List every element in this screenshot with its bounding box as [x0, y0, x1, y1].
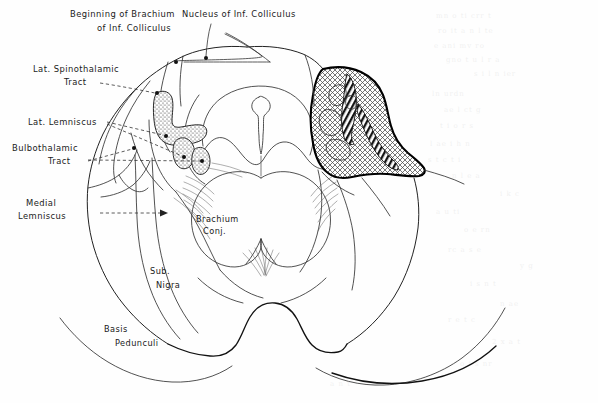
label-medial-lemniscus-line2: Lemniscus	[18, 211, 66, 221]
svg-text:i k c: i k c	[500, 190, 520, 198]
label-brachium-conj-line1: Brachium	[196, 214, 239, 224]
svg-text:o e rn: o e rn	[464, 226, 491, 234]
label-lat-spinothalamic-line1: Lat. Spinothalamic	[33, 64, 119, 74]
svg-text:y g: y g	[519, 262, 534, 270]
label-sub-nigra-line2: Nigra	[156, 280, 180, 290]
svg-text:ln urdn: ln urdn	[432, 90, 465, 98]
label-brachium-conj-line2: Conj.	[203, 226, 226, 236]
svg-text:s t c t i: s t c t i	[428, 156, 461, 164]
leader-endpoint-dot	[204, 56, 208, 60]
svg-text:n ae: n ae	[500, 300, 519, 308]
svg-text:mn o ti crr t: mn o ti crr t	[436, 12, 492, 20]
label-basis-pedunculi-line2: Pedunculi	[115, 338, 159, 348]
svg-text:s i l n ier: s i l n ier	[474, 70, 516, 78]
label-beginning-brachium-line2: of Inf. Colliculus	[97, 23, 171, 33]
label-sub-nigra-line1: Sub.	[150, 266, 170, 276]
svg-text:ro it a n l te: ro it a n l te	[438, 27, 494, 35]
label-lat-spinothalamic-line2: Tract	[63, 77, 87, 87]
svg-text:l ae i h n: l ae i h n	[430, 140, 471, 148]
label-medial-lemniscus-line1: Medial	[26, 198, 56, 208]
svg-text:t i o r s: t i o r s	[440, 122, 474, 130]
svg-text:r e t c: r e t c	[448, 316, 476, 324]
leader-endpoint-dot	[200, 159, 204, 163]
lat-lemniscus-region	[173, 138, 195, 169]
leader-endpoint-dot	[182, 155, 186, 159]
label-lat-lemniscus-text: Lat. Lemniscus	[28, 117, 97, 127]
svg-text:rc a s e: rc a s e	[448, 246, 482, 254]
svg-text:a u ti: a u ti	[436, 208, 460, 216]
label-beginning-brachium-line1: Beginning of Brachium	[70, 9, 175, 19]
label-bulbothalamic-line2: Tract	[47, 156, 71, 166]
svg-text:n l e a: n l e a	[452, 172, 481, 180]
leader-endpoint-dot	[164, 134, 168, 138]
svg-text:i s n t: i s n t	[470, 280, 497, 288]
anatomical-figure: mn o ti crr t ro it a n l te e ani mv ro…	[0, 0, 598, 403]
leader-endpoint-dot	[132, 146, 136, 150]
svg-text:2 x a t: 2 x a t	[492, 338, 521, 346]
label-basis-pedunculi-line1: Basis	[104, 324, 128, 334]
label-bulbothalamic-line1: Bulbothalamic	[12, 143, 78, 153]
svg-text:ae l ct g: ae l ct g	[444, 106, 481, 114]
leader-endpoint-dot	[155, 91, 159, 95]
svg-text:gno t u l r a: gno t u l r a	[446, 56, 500, 64]
label-nucleus-inf-colliculus-text: Nucleus of Inf. Colliculus	[182, 9, 296, 19]
leader-endpoint-dot	[174, 60, 178, 64]
svg-text:e ani mv ro: e ani mv ro	[434, 42, 485, 50]
